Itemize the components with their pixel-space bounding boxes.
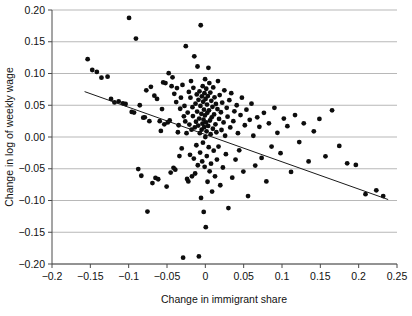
data-point <box>249 101 254 106</box>
y-axis-title: Change in log of weekly wage <box>3 67 15 207</box>
data-point <box>195 109 200 114</box>
data-point <box>200 159 205 164</box>
data-point <box>236 131 241 136</box>
data-point <box>223 133 228 138</box>
data-point <box>195 163 200 168</box>
data-point <box>175 86 180 91</box>
data-point <box>180 83 185 88</box>
data-point <box>205 102 210 107</box>
data-point <box>289 170 294 175</box>
data-point <box>220 165 225 170</box>
data-point <box>233 157 238 162</box>
data-point <box>223 152 228 157</box>
x-tick-label: −0.1 <box>118 270 139 282</box>
data-point <box>246 194 251 199</box>
data-point <box>204 129 209 134</box>
data-point <box>211 85 216 90</box>
data-point <box>142 115 147 120</box>
data-point <box>204 86 209 91</box>
data-point <box>150 181 155 186</box>
data-point <box>251 133 256 138</box>
data-point <box>262 110 267 115</box>
data-point <box>202 164 207 169</box>
data-point <box>231 119 236 124</box>
x-tick-label: 0.2 <box>351 270 366 282</box>
data-point <box>134 36 139 41</box>
data-point <box>206 65 211 70</box>
data-point <box>198 23 203 28</box>
data-point <box>188 152 193 157</box>
data-point <box>189 79 194 84</box>
y-tick-label: −0.05 <box>18 162 45 174</box>
data-point <box>219 128 224 133</box>
data-point <box>275 130 280 135</box>
data-point <box>278 151 283 156</box>
data-point <box>191 156 196 161</box>
data-point <box>285 124 290 129</box>
data-point <box>281 116 286 121</box>
y-tick-label: 0.20 <box>25 4 46 16</box>
data-point <box>306 159 311 164</box>
data-point <box>201 140 206 145</box>
data-point <box>201 210 206 215</box>
data-point <box>186 179 191 184</box>
data-point <box>99 75 104 80</box>
data-point <box>237 148 242 153</box>
data-point <box>255 115 260 120</box>
data-point <box>213 174 218 179</box>
data-point <box>210 189 215 194</box>
data-point <box>210 126 215 131</box>
x-tick-label: 0 <box>202 270 208 282</box>
data-point <box>272 105 277 110</box>
data-point <box>311 129 316 134</box>
data-point <box>227 98 232 103</box>
data-point <box>85 57 90 62</box>
data-point <box>174 100 179 105</box>
data-point <box>204 154 209 159</box>
data-point <box>175 130 180 135</box>
data-point <box>187 122 192 127</box>
data-point <box>155 97 160 102</box>
data-point <box>203 225 208 230</box>
x-tick-label: 0.05 <box>233 270 254 282</box>
data-point <box>257 124 262 129</box>
data-point <box>139 173 144 178</box>
data-point <box>219 110 224 115</box>
data-point <box>229 91 234 96</box>
data-point <box>168 170 173 175</box>
x-tick-label: −0.15 <box>77 270 104 282</box>
data-point <box>301 121 306 126</box>
data-point <box>179 95 184 100</box>
data-point <box>225 114 230 119</box>
data-point <box>323 154 328 159</box>
data-point <box>136 167 141 172</box>
data-point <box>241 169 246 174</box>
y-tick-label: 0.10 <box>25 67 46 79</box>
data-point <box>242 123 247 128</box>
data-point <box>217 117 222 122</box>
data-point <box>230 175 235 180</box>
data-point <box>166 71 171 76</box>
data-point <box>182 103 187 108</box>
data-point <box>203 77 208 82</box>
data-point <box>197 116 202 121</box>
data-point <box>207 81 212 86</box>
data-point <box>238 113 243 118</box>
y-tick-label: 0.05 <box>25 99 46 111</box>
data-point <box>253 163 258 168</box>
x-tick-label: 0.15 <box>310 270 331 282</box>
data-point <box>147 119 152 124</box>
data-point <box>198 103 203 108</box>
y-tick-label: −0.20 <box>18 258 45 270</box>
data-point <box>137 103 142 108</box>
data-point <box>145 209 150 214</box>
data-point <box>226 206 231 211</box>
data-point <box>169 84 174 89</box>
data-point <box>205 179 210 184</box>
data-point <box>172 91 177 96</box>
data-point <box>211 148 216 153</box>
y-tick-label: −0.10 <box>18 194 45 206</box>
data-point <box>160 107 165 112</box>
data-point <box>188 95 193 100</box>
data-point <box>191 85 196 90</box>
